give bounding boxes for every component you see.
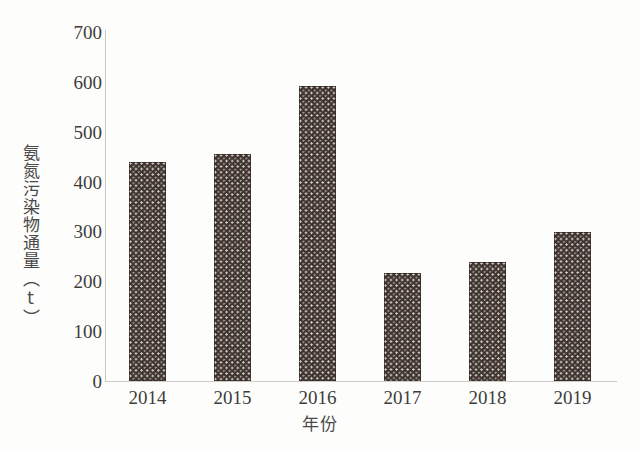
y-axis-tick-labels: 0100200300400500600700 bbox=[44, 0, 102, 452]
y-tick-label: 400 bbox=[48, 172, 102, 191]
y-tick-label: 500 bbox=[48, 122, 102, 141]
bar-chart: 氨氮污染物通量（t） 0100200300400500600700 201420… bbox=[0, 0, 639, 452]
bar-2018 bbox=[469, 262, 506, 381]
x-axis-line bbox=[105, 381, 617, 382]
x-tick-label: 2017 bbox=[358, 386, 448, 410]
x-axis-title: 年份 bbox=[0, 410, 639, 435]
x-tick-label: 2015 bbox=[188, 386, 278, 410]
x-tick-label: 2016 bbox=[273, 386, 363, 410]
y-tick-label: 200 bbox=[48, 272, 102, 291]
bar-2015 bbox=[214, 154, 251, 381]
bar-2019 bbox=[554, 232, 591, 381]
bar-2014 bbox=[129, 162, 166, 381]
x-tick-label: 2014 bbox=[103, 386, 193, 410]
y-tick-label: 700 bbox=[48, 23, 102, 42]
plot-area bbox=[105, 32, 615, 381]
y-tick-label: 300 bbox=[48, 222, 102, 241]
y-axis-title: 氨氮污染物通量（t） bbox=[14, 110, 48, 360]
x-tick-label: 2018 bbox=[443, 386, 533, 410]
y-tick-label: 100 bbox=[48, 322, 102, 341]
bar-2017 bbox=[384, 273, 421, 381]
y-tick-label: 600 bbox=[48, 72, 102, 91]
x-tick-label: 2019 bbox=[528, 386, 618, 410]
bar-2016 bbox=[299, 86, 336, 381]
